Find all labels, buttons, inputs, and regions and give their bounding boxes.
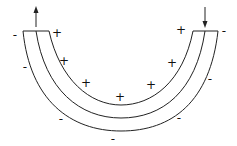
minus-sign: - bbox=[222, 25, 226, 37]
minus-sign: - bbox=[177, 112, 181, 124]
down-arrow-icon bbox=[203, 7, 208, 28]
minus-sign: - bbox=[23, 61, 27, 73]
plus-sign: + bbox=[146, 79, 156, 91]
plus-sign: + bbox=[115, 91, 125, 103]
minus-sign: - bbox=[208, 73, 212, 85]
plus-sign: + bbox=[59, 55, 69, 67]
up-arrow-icon bbox=[34, 6, 39, 27]
u-tube-diagram bbox=[0, 0, 237, 146]
plus-sign: + bbox=[176, 24, 186, 36]
minus-sign: - bbox=[111, 133, 115, 145]
plus-sign: + bbox=[167, 57, 177, 69]
minus-sign: - bbox=[13, 29, 17, 41]
plus-sign: + bbox=[52, 27, 62, 39]
minus-sign: - bbox=[59, 113, 63, 125]
plus-sign: + bbox=[81, 77, 91, 89]
